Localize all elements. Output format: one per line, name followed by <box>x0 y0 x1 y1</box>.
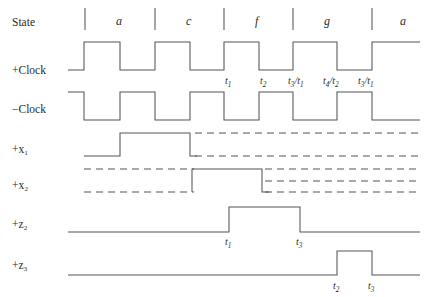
time-label-z2-fall: t3 <box>296 236 303 250</box>
time-label-z2-rise: t1 <box>225 236 231 250</box>
waveform-plus-x2 <box>192 169 269 192</box>
state-label-0: a <box>116 14 122 28</box>
clock-time-labels: t1 t2 t3/t1 t4/t2 t3/t1 <box>225 75 374 89</box>
state-label-1: c <box>186 14 192 28</box>
waveform-plus-z2 <box>68 207 420 232</box>
time-label-t1: t1 <box>225 75 231 89</box>
row-label-plus-x2: +x₂ <box>12 179 28 191</box>
row-label-plus-z2: +z₂ <box>12 218 28 230</box>
timing-diagram: State +Clock −Clock +x₁ +x₂ +z₂ +z₃ a c … <box>0 0 428 297</box>
waveform-plus-x1 <box>84 133 197 156</box>
time-label-t3-t1: t3/t1 <box>288 75 304 89</box>
time-label-t2: t2 <box>260 75 267 89</box>
state-label-3: g <box>324 14 330 28</box>
time-label-t3-t1-second: t3/t1 <box>358 75 374 89</box>
row-label-state: State <box>12 16 35 28</box>
state-label-2: f <box>255 14 260 28</box>
z3-time-labels: t2 t3 <box>333 280 375 294</box>
time-label-z3-rise: t2 <box>333 280 340 294</box>
time-label-t4-t2: t4/t2 <box>323 75 339 89</box>
row-label-plus-x1: +x₁ <box>12 143 28 155</box>
z2-time-labels: t1 t3 <box>225 236 303 250</box>
state-label-4: a <box>400 14 406 28</box>
waveform-plus-clock <box>68 42 420 70</box>
time-label-z3-fall: t3 <box>368 280 375 294</box>
waveform-minus-clock <box>68 92 420 120</box>
waveform-plus-z3 <box>68 251 420 275</box>
row-label-minus-clock: −Clock <box>12 103 46 115</box>
row-labels: State +Clock −Clock +x₁ +x₂ +z₂ +z₃ <box>12 16 46 271</box>
row-label-plus-clock: +Clock <box>12 64 46 76</box>
row-label-plus-z3: +z₃ <box>12 259 28 271</box>
state-labels: a c f g a <box>116 14 406 28</box>
